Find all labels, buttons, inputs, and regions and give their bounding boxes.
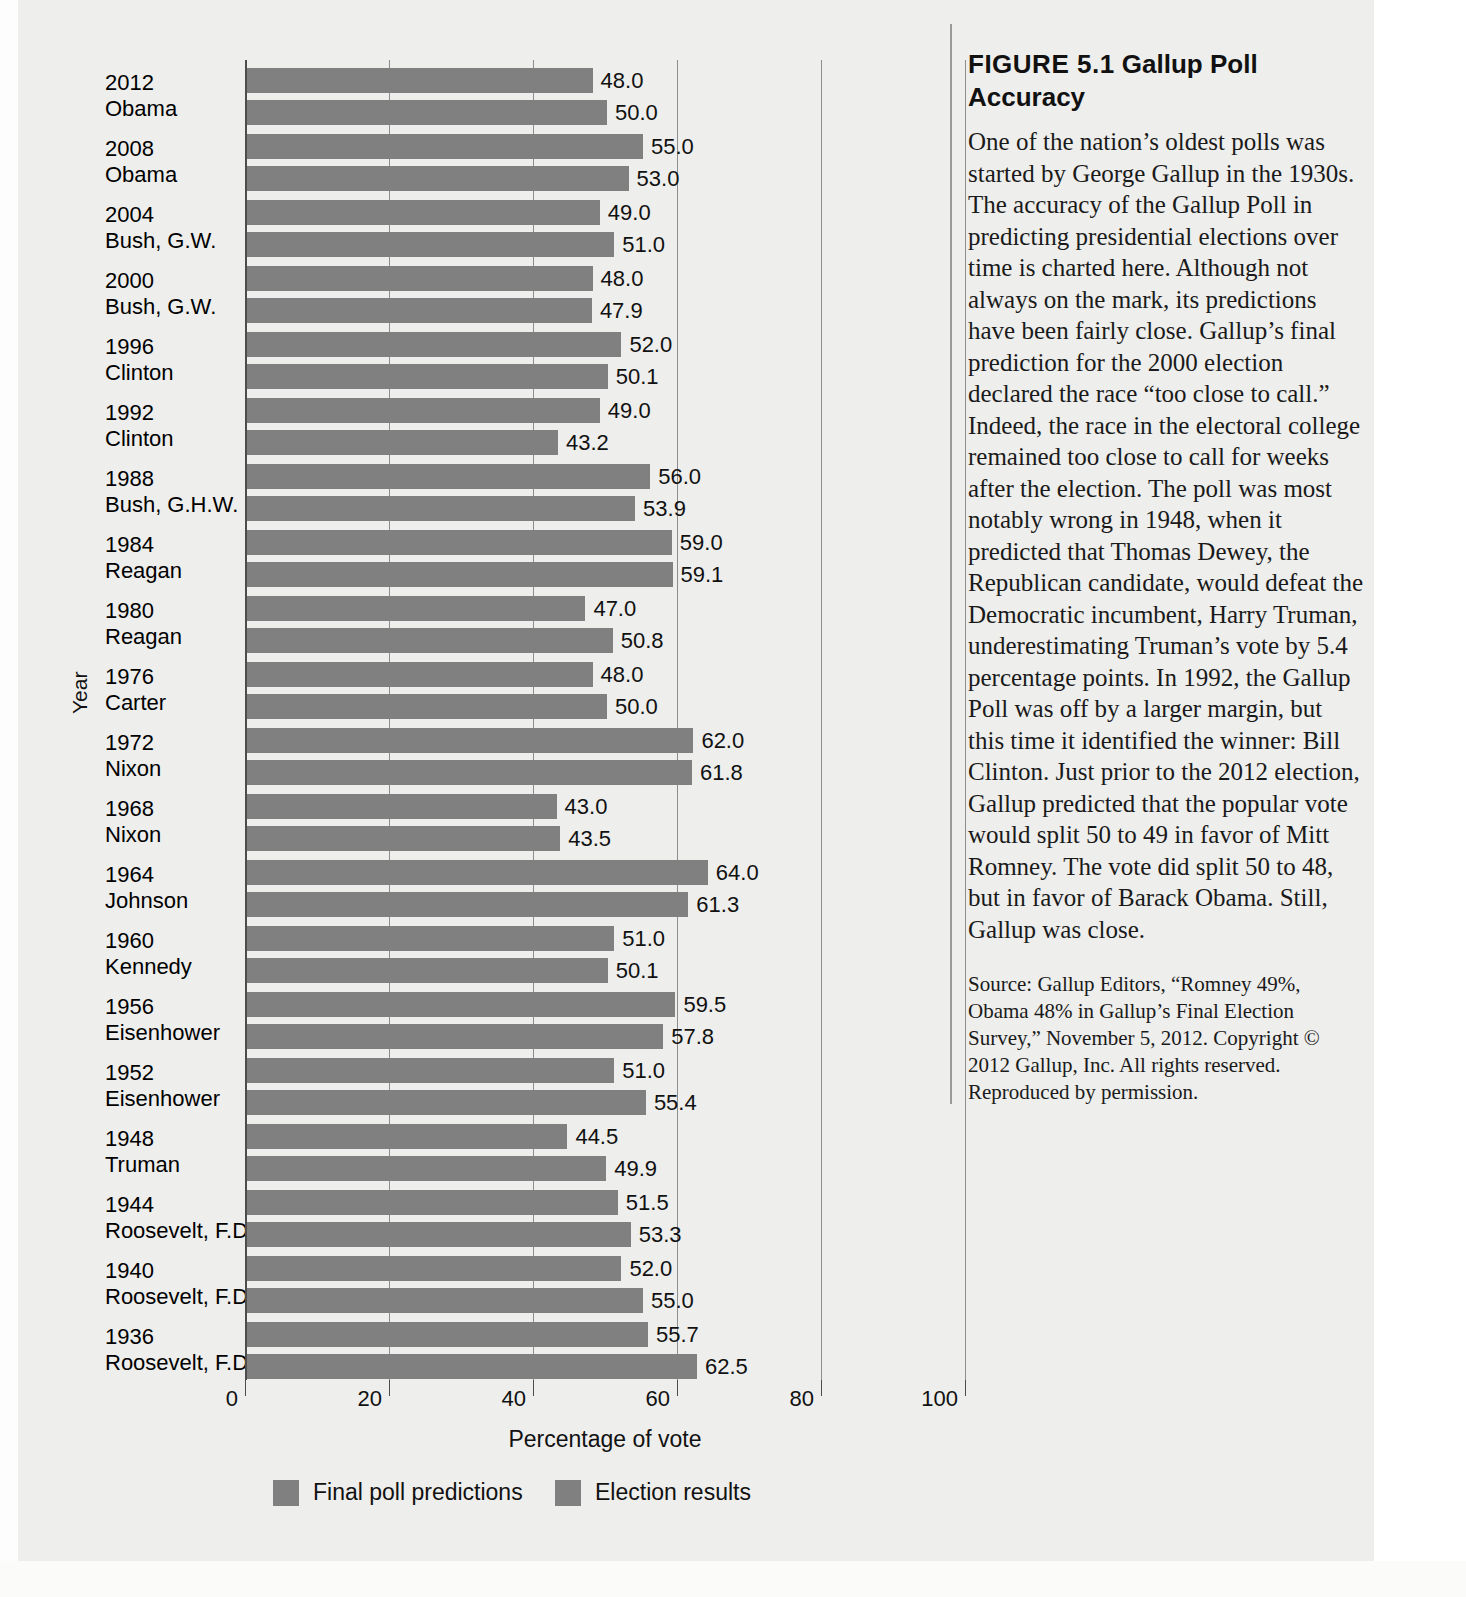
- bar-value-label: 61.3: [688, 892, 739, 917]
- gridline: [389, 60, 390, 1380]
- bar-value-label: 49.0: [600, 200, 651, 225]
- bar-value-label: 64.0: [708, 860, 759, 885]
- bar-final-poll-prediction: [247, 1190, 618, 1215]
- bar-group: 62.061.8: [245, 728, 965, 786]
- bar-group: 47.050.8: [245, 596, 965, 654]
- bar-group: 49.051.0: [245, 200, 965, 258]
- bar-final-poll-prediction: [247, 1256, 621, 1281]
- bar-election-result: [247, 364, 608, 389]
- bar-value-label: 47.0: [585, 596, 636, 621]
- bar-group: 55.762.5: [245, 1322, 965, 1380]
- bar-group: 64.061.3: [245, 860, 965, 918]
- bar-group: 55.053.0: [245, 134, 965, 192]
- bar-election-result: [247, 628, 613, 653]
- legend-item[interactable]: Final poll predictions: [273, 1479, 523, 1506]
- bar-value-label: 51.0: [614, 926, 665, 951]
- bar-value-label: 51.5: [618, 1190, 669, 1215]
- bar-value-label: 44.5: [567, 1124, 618, 1149]
- bar-group: 52.050.1: [245, 332, 965, 390]
- bar-election-result: [247, 1354, 697, 1379]
- bar-final-poll-prediction: [247, 200, 600, 225]
- figure-number: FIGURE 5.1: [968, 49, 1115, 79]
- x-axis-label: Percentage of vote: [245, 1426, 965, 1453]
- legend-label: Final poll predictions: [313, 1479, 523, 1506]
- bar-election-result: [247, 760, 692, 785]
- bar-value-label: 50.0: [607, 100, 658, 125]
- bar-final-poll-prediction: [247, 926, 614, 951]
- chart-panel: Year 2012Obama2008Obama2004Bush, G.W.200…: [20, 24, 940, 1534]
- bar-value-label: 59.1: [673, 562, 724, 587]
- bar-value-label: 59.0: [672, 530, 723, 555]
- bar-group: 51.055.4: [245, 1058, 965, 1116]
- bar-election-result: [247, 298, 592, 323]
- bar-election-result: [247, 958, 608, 983]
- bar-final-poll-prediction: [247, 266, 593, 291]
- bar-value-label: 53.0: [629, 166, 680, 191]
- bar-election-result: [247, 1288, 643, 1313]
- bar-election-result: [247, 1090, 646, 1115]
- bar-value-label: 48.0: [593, 266, 644, 291]
- bar-final-poll-prediction: [247, 662, 593, 687]
- bar-value-label: 56.0: [650, 464, 701, 489]
- bar-value-label: 59.5: [675, 992, 726, 1017]
- bar-value-label: 52.0: [621, 1256, 672, 1281]
- figure-title: FIGURE 5.1 Gallup Poll Accuracy: [968, 48, 1364, 114]
- bar-value-label: 51.0: [614, 1058, 665, 1083]
- bar-election-result: [247, 1024, 663, 1049]
- bar-group: 43.043.5: [245, 794, 965, 852]
- x-tick-mark: [821, 1380, 822, 1396]
- chart-legend: Final poll predictionsElection results: [245, 1479, 965, 1519]
- bar-value-label: 49.0: [600, 398, 651, 423]
- bar-value-label: 55.7: [648, 1322, 699, 1347]
- bar-final-poll-prediction: [247, 1124, 567, 1149]
- bar-group: 44.549.9: [245, 1124, 965, 1182]
- figure-body-text: One of the nation’s oldest polls was sta…: [968, 126, 1364, 945]
- bar-value-label: 50.1: [608, 364, 659, 389]
- legend-item[interactable]: Election results: [555, 1479, 751, 1506]
- bar-value-label: 51.0: [614, 232, 665, 257]
- bar-value-label: 43.0: [557, 794, 608, 819]
- x-tick-mark: [965, 1380, 966, 1396]
- gridline: [533, 60, 534, 1380]
- bar-value-label: 48.0: [593, 68, 644, 93]
- x-tick-mark: [677, 1380, 678, 1396]
- bar-election-result: [247, 430, 558, 455]
- bar-final-poll-prediction: [247, 398, 600, 423]
- gridline: [821, 60, 822, 1380]
- bar-election-result: [247, 694, 607, 719]
- bar-election-result: [247, 1222, 631, 1247]
- bar-final-poll-prediction: [247, 1322, 648, 1347]
- bar-final-poll-prediction: [247, 68, 593, 93]
- bar-final-poll-prediction: [247, 728, 693, 753]
- legend-swatch: [273, 1480, 299, 1506]
- bar-value-label: 55.4: [646, 1090, 697, 1115]
- bar-group: 51.050.1: [245, 926, 965, 984]
- bar-group: 56.053.9: [245, 464, 965, 522]
- bar-election-result: [247, 826, 560, 851]
- x-tick-mark: [389, 1380, 390, 1396]
- bar-value-label: 43.5: [560, 826, 611, 851]
- bar-value-label: 50.1: [608, 958, 659, 983]
- bar-final-poll-prediction: [247, 992, 675, 1017]
- bar-final-poll-prediction: [247, 1058, 614, 1083]
- bar-final-poll-prediction: [247, 134, 643, 159]
- bar-election-result: [247, 1156, 606, 1181]
- x-tick-label: 60: [646, 1386, 677, 1412]
- bar-value-label: 52.0: [621, 332, 672, 357]
- bar-value-label: 48.0: [593, 662, 644, 687]
- bar-value-label: 62.0: [693, 728, 744, 753]
- x-tick-label: 40: [502, 1386, 533, 1412]
- x-tick-label: 80: [790, 1386, 821, 1412]
- bar-election-result: [247, 496, 635, 521]
- bar-final-poll-prediction: [247, 332, 621, 357]
- x-tick-label: 0: [226, 1386, 245, 1412]
- bar-group: 48.047.9: [245, 266, 965, 324]
- page-bottom-margin: [0, 1561, 1466, 1597]
- bar-group: 59.059.1: [245, 530, 965, 588]
- bar-group: 52.055.0: [245, 1256, 965, 1314]
- x-tick-label: 100: [921, 1386, 965, 1412]
- legend-swatch: [555, 1480, 581, 1506]
- y-axis-label: Year: [68, 672, 92, 714]
- bar-group: 59.557.8: [245, 992, 965, 1050]
- bar-value-label: 55.0: [643, 134, 694, 159]
